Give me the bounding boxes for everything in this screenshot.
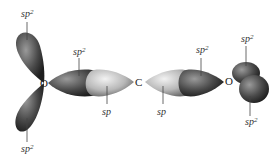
atom-right-oxygen: O [225, 76, 233, 87]
right-o-lower-lobe [239, 75, 269, 103]
label-left-o-bond: sp2 [73, 47, 85, 57]
c-left-lobe [86, 70, 134, 97]
label-c-left-bond: sp [102, 107, 111, 117]
left-o-lower-lobe [15, 83, 44, 132]
label-c-right-bond: sp [157, 107, 166, 117]
label-right-o-bond: sp2 [196, 45, 208, 55]
left-o-upper-lobe [16, 32, 44, 83]
atom-carbon: C [135, 77, 142, 88]
atom-left-oxygen: O [40, 78, 48, 89]
label-right-o-top: sp2 [241, 34, 253, 44]
label-left-o-top: sp2 [21, 9, 33, 19]
label-right-o-bottom: sp2 [245, 117, 257, 127]
label-left-o-bottom: sp2 [21, 144, 33, 154]
